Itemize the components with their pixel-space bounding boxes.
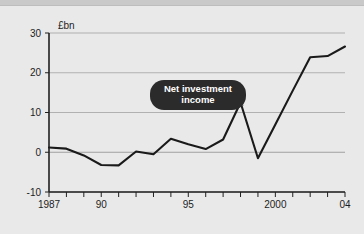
x-tick-label-95: 95 xyxy=(183,199,195,210)
x-tick-label-2000: 2000 xyxy=(264,199,287,210)
y-tick-label-20: 20 xyxy=(30,67,42,78)
net-investment-income-chart: 3020100-10 19879095200004 £bn Net invest… xyxy=(0,5,364,234)
y-axis-unit-label: £bn xyxy=(58,20,75,31)
callout-text-line-1: Net investment xyxy=(164,83,233,94)
gridlines xyxy=(49,33,345,192)
chart-canvas: 3020100-10 19879095200004 £bn Net invest… xyxy=(0,5,364,234)
y-tick-label--10: -10 xyxy=(27,187,42,198)
x-tick-label-04: 04 xyxy=(339,199,351,210)
x-axis-tick-labels: 19879095200004 xyxy=(38,199,351,210)
net-investment-income-callout: Net investment income xyxy=(150,80,246,110)
callout-text-line-2: income xyxy=(181,94,214,105)
y-axis-tick-labels: 3020100-10 xyxy=(27,28,42,198)
y-tick-label-10: 10 xyxy=(30,107,42,118)
x-tick-label-90: 90 xyxy=(96,199,108,210)
y-tick-label-0: 0 xyxy=(35,147,41,158)
x-tick-label-1987: 1987 xyxy=(38,199,61,210)
y-tick-label-30: 30 xyxy=(30,28,42,39)
